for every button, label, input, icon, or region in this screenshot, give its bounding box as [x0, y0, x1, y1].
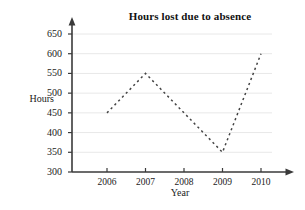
y-axis-tick-label: 600 — [36, 49, 62, 59]
y-axis-tick-label: 550 — [36, 68, 62, 78]
data-series-line — [107, 54, 261, 153]
y-axis-arrow-icon — [69, 17, 76, 26]
x-axis-tick-label: 2008 — [164, 177, 204, 187]
gridlines — [72, 34, 272, 152]
y-axis-tick-label: 400 — [36, 128, 62, 138]
x-axis-tick-label: 2006 — [87, 177, 127, 187]
y-axis-tick-label: 500 — [36, 88, 62, 98]
y-axis-tick-label: 350 — [36, 147, 62, 157]
x-axis-arrow-icon — [286, 169, 295, 176]
y-axis-tick-label: 450 — [36, 108, 62, 118]
y-axis-tick-label: 300 — [36, 167, 62, 177]
x-axis-tick-label: 2010 — [241, 177, 281, 187]
chart-container: Hours lost due to absence Hours Year 300… — [0, 0, 305, 210]
x-axis-tick-label: 2007 — [126, 177, 166, 187]
y-axis-tick-label: 650 — [36, 29, 62, 39]
x-axis-tick-label: 2009 — [203, 177, 243, 187]
